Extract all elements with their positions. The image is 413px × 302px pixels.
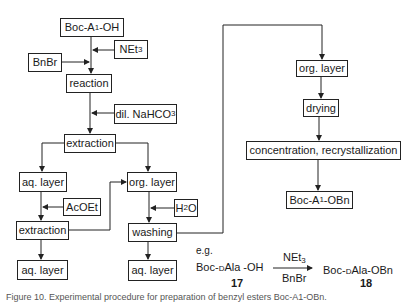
node-acoet: AcOEt (63, 198, 101, 216)
node-h2o: H2O (174, 199, 198, 217)
node-text: dil. NaHCO (115, 109, 171, 120)
node-text: washing (132, 227, 172, 238)
product-text: Boc- (323, 264, 346, 276)
node-text: Boc-A (65, 22, 95, 33)
node-text: aq. layer (22, 177, 64, 188)
node-text: extraction (19, 225, 67, 236)
product-number: 18 (360, 278, 372, 289)
node-text: aq. layer (131, 265, 173, 276)
node-org-layer-1: org. layer (127, 172, 177, 192)
node-text: aq. layer (21, 265, 63, 276)
node-text: NEt (120, 44, 138, 55)
node-aq-layer-1: aq. layer (19, 172, 67, 192)
node-aq-layer-3: aq. layer (128, 260, 177, 281)
node-text: org. layer (129, 177, 175, 188)
example-reactant: Boc-DAla -OH (196, 262, 264, 273)
node-aq-layer-2: aq. layer (17, 260, 68, 280)
reactant-number: 17 (231, 278, 243, 289)
node-boc-a1-obn: Boc-A1-OBn (286, 191, 353, 209)
node-extraction-2: extraction (16, 221, 69, 240)
example-product: Boc-DAla-OBn (323, 265, 393, 276)
reactant-text: Ala -OH (224, 261, 263, 273)
node-text: -OBn (324, 195, 350, 206)
reagent-subscript: 3 (301, 256, 305, 265)
figure-caption: Figure 10. Experimental procedure for pr… (6, 292, 327, 302)
node-text: org. layer (299, 63, 345, 74)
node-bnbr: BnBr (28, 53, 62, 72)
reactant-text: Boc- (196, 261, 219, 273)
node-nahco3: dil. NaHCO3 (114, 104, 177, 124)
node-reaction: reaction (66, 74, 112, 93)
node-concentration-recrystallization: concentration, recrystallization (246, 141, 401, 160)
node-text: Boc-A (289, 195, 319, 206)
node-net3: NEt3 (114, 40, 148, 59)
product-text: Ala-OBn (351, 264, 393, 276)
reagent-text: NEt (283, 251, 301, 263)
node-org-layer-2: org. layer (296, 60, 348, 77)
reagent-top: NEt3 (283, 252, 306, 263)
node-drying: drying (303, 99, 339, 117)
node-text: BnBr (33, 57, 57, 68)
node-text: concentration, recrystallization (250, 145, 398, 156)
node-text: H (176, 203, 184, 214)
node-washing: washing (128, 223, 177, 242)
reagent-bottom: BnBr (282, 273, 306, 284)
node-text: O (188, 203, 197, 214)
example-label: e.g. (196, 246, 213, 256)
node-text: drying (306, 103, 336, 114)
node-text: AcOEt (66, 202, 98, 213)
node-text: extraction (66, 138, 114, 149)
node-boc-a1-oh: Boc-A1-OH (60, 18, 124, 37)
node-extraction-1: extraction (64, 134, 116, 153)
node-text: -OH (99, 22, 119, 33)
node-text: reaction (69, 78, 108, 89)
